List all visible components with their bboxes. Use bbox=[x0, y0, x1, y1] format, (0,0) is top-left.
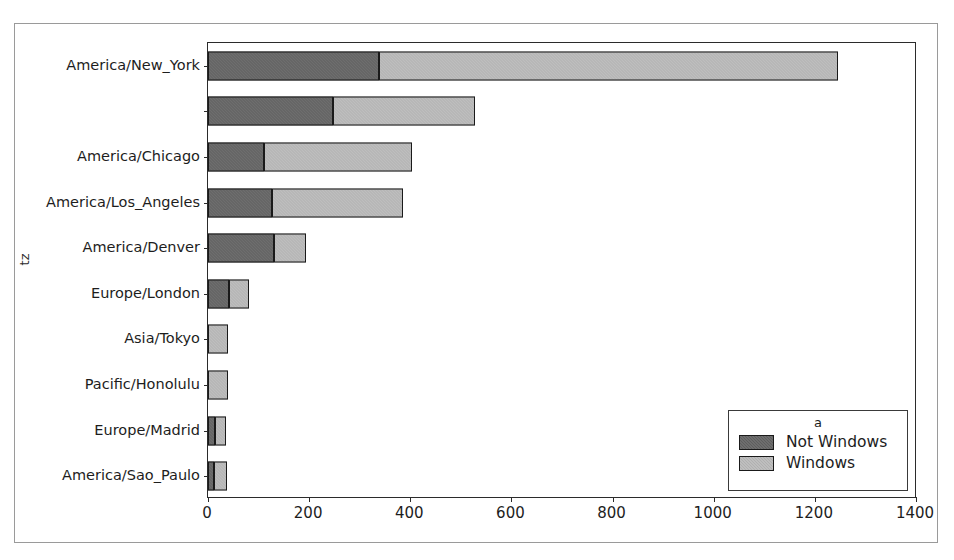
y-tick-mark bbox=[204, 157, 208, 158]
y-axis-tick-labels: America/New_YorkAmerica/ChicagoAmerica/L… bbox=[0, 42, 205, 498]
legend-entries: Not WindowsWindows bbox=[729, 433, 907, 472]
bar-segment-windows bbox=[274, 234, 306, 263]
x-tick-label: 800 bbox=[597, 504, 626, 522]
bar-segment-not-windows bbox=[208, 51, 379, 80]
bar-segment-windows bbox=[208, 371, 228, 400]
x-tick-label: 1400 bbox=[896, 504, 934, 522]
bar-segment-windows bbox=[215, 416, 226, 445]
legend-entry: Windows bbox=[739, 454, 907, 472]
y-tick-mark bbox=[204, 476, 208, 477]
legend-entry: Not Windows bbox=[739, 433, 907, 451]
x-tick-mark bbox=[208, 497, 209, 502]
x-tick-label: 600 bbox=[496, 504, 525, 522]
legend-swatch-not-windows bbox=[739, 435, 774, 450]
bar-segment-windows bbox=[333, 97, 475, 126]
y-tick-label: Europe/Madrid bbox=[5, 422, 205, 438]
legend-label: Not Windows bbox=[786, 433, 887, 451]
bar-segment-not-windows bbox=[208, 143, 264, 172]
bar-segment-not-windows bbox=[208, 234, 274, 263]
x-tick-mark bbox=[410, 497, 411, 502]
y-tick-mark bbox=[204, 385, 208, 386]
x-tick-mark bbox=[511, 497, 512, 502]
legend: a Not WindowsWindows bbox=[728, 410, 908, 491]
y-tick-label: Pacific/Honolulu bbox=[5, 376, 205, 392]
legend-swatch-windows bbox=[739, 456, 774, 471]
x-tick-mark bbox=[714, 497, 715, 502]
x-tick-mark bbox=[309, 497, 310, 502]
y-tick-label: Asia/Tokyo bbox=[5, 330, 205, 346]
bar-segment-windows bbox=[379, 51, 837, 80]
bar-segment-not-windows bbox=[208, 188, 272, 217]
y-tick-label: America/Los_Angeles bbox=[5, 194, 205, 210]
bar-segment-windows bbox=[272, 188, 403, 217]
x-tick-label: 1000 bbox=[694, 504, 732, 522]
legend-title: a bbox=[729, 415, 907, 430]
y-tick-mark bbox=[204, 339, 208, 340]
x-tick-label: 400 bbox=[395, 504, 424, 522]
legend-label: Windows bbox=[786, 454, 855, 472]
y-tick-label: America/Sao_Paulo bbox=[5, 467, 205, 483]
y-tick-label: America/Chicago bbox=[5, 148, 205, 164]
y-tick-label: America/Denver bbox=[5, 239, 205, 255]
bar-segment-windows bbox=[208, 325, 228, 354]
bar-segment-not-windows bbox=[208, 416, 215, 445]
y-tick-mark bbox=[204, 203, 208, 204]
x-tick-label: 200 bbox=[294, 504, 323, 522]
bar-segment-windows bbox=[229, 279, 249, 308]
y-tick-mark bbox=[204, 431, 208, 432]
y-tick-label: America/New_York bbox=[5, 57, 205, 73]
y-tick-label: Europe/London bbox=[5, 285, 205, 301]
x-tick-mark bbox=[613, 497, 614, 502]
y-tick-mark bbox=[204, 294, 208, 295]
x-tick-mark bbox=[916, 497, 917, 502]
bar-segment-windows bbox=[264, 143, 412, 172]
x-tick-mark bbox=[815, 497, 816, 502]
chart-figure: tz America/New_YorkAmerica/ChicagoAmeric… bbox=[0, 0, 954, 560]
bar-segment-not-windows bbox=[208, 279, 229, 308]
y-tick-mark bbox=[204, 66, 208, 67]
x-tick-label: 0 bbox=[202, 504, 212, 522]
y-tick-mark bbox=[204, 111, 208, 112]
bar-segment-not-windows bbox=[208, 97, 333, 126]
x-tick-label: 1200 bbox=[795, 504, 833, 522]
bar-segment-windows bbox=[214, 462, 227, 491]
y-tick-mark bbox=[204, 248, 208, 249]
